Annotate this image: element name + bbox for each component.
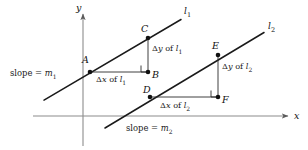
point-A-dot (88, 70, 93, 75)
delta-x-l2-var: x (166, 100, 171, 110)
line-label-l2: l2 (268, 22, 275, 33)
delta-y-l1-var: y (158, 43, 163, 53)
point-C-dot (146, 36, 151, 41)
line-label-l1-sub: 1 (187, 11, 191, 19)
delta-x-l2-of: of (173, 100, 181, 110)
delta-x-l1-of: of (109, 74, 117, 84)
line-l2 (105, 33, 264, 129)
point-E-dot (216, 53, 221, 58)
delta-x-l1-var: x (102, 74, 107, 84)
slope-m1-var: m (45, 68, 53, 78)
point-B-dot (146, 70, 151, 75)
point-label-A: A (82, 55, 89, 65)
delta-x-l1-sub: 1 (122, 79, 126, 86)
point-label-D: D (143, 85, 151, 95)
slope-diagram: y x l1 l2 A B C D E F Δy of l1 Δx of l1 … (0, 0, 308, 150)
slope-m1-word: slope (10, 68, 32, 78)
delta-y-l1-sub: 1 (178, 48, 182, 55)
delta-y-l2-sub: 2 (248, 66, 252, 73)
slope-m2-sub: 2 (169, 128, 173, 135)
x-axis-label: x (294, 111, 299, 121)
point-F-dot (216, 95, 221, 100)
slope-m1-label: slope = m1 (10, 69, 57, 80)
delta-y-l2-label: Δy of l2 (222, 62, 252, 73)
delta-y-l2-of: of (235, 61, 243, 71)
point-label-C: C (141, 24, 148, 34)
delta-y-l2-var: y (228, 61, 233, 71)
slope-m2-var: m (161, 123, 169, 133)
slope-m2-word: slope (126, 123, 148, 133)
delta-x-l2-sub: 2 (186, 105, 190, 112)
slope-m1-equals: = (35, 68, 42, 78)
delta-x-l1-label: Δx of l1 (96, 75, 126, 86)
point-label-B: B (152, 70, 159, 80)
slope-m1-sub: 1 (53, 73, 57, 80)
point-label-F: F (222, 95, 229, 105)
delta-y-l1-label: Δy of l1 (152, 44, 182, 55)
slope-m2-equals: = (151, 123, 158, 133)
point-label-E: E (212, 41, 219, 51)
y-axis-label: y (76, 3, 81, 13)
line-l1 (44, 20, 181, 101)
point-D-dot (148, 95, 153, 100)
delta-y-l1-of: of (165, 43, 173, 53)
line-label-l1: l1 (184, 7, 191, 18)
delta-x-l2-label: Δx of l2 (160, 101, 190, 112)
slope-m2-label: slope = m2 (126, 124, 173, 135)
line-label-l2-sub: 2 (271, 26, 275, 34)
